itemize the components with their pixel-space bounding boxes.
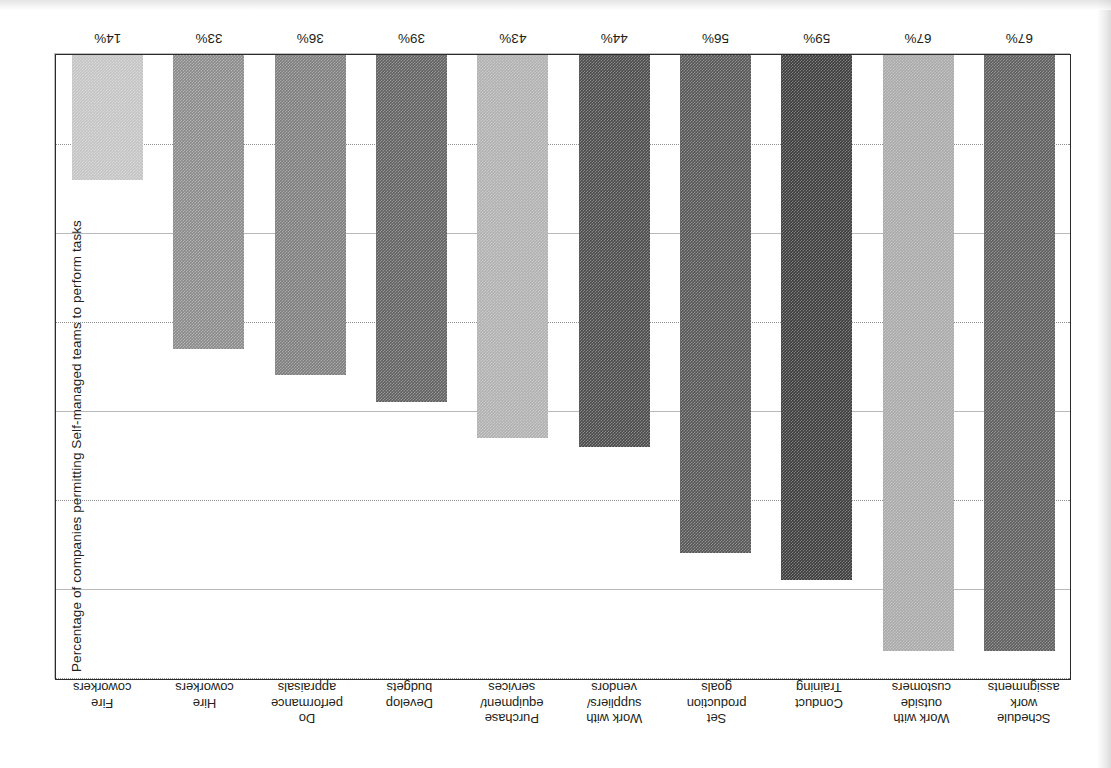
- category-label: Setproductiongoals: [665, 680, 767, 727]
- bar-halftone-texture: [680, 55, 751, 553]
- category-label-line: Develop: [358, 696, 460, 712]
- bar-halftone-texture: [883, 55, 954, 651]
- category-label-line: Schedule: [973, 711, 1075, 727]
- bar-value-label: 33%: [195, 31, 222, 46]
- bar-value-label: 36%: [297, 31, 324, 46]
- bar[interactable]: 67%: [984, 55, 1055, 651]
- category-label-line: Set: [665, 711, 767, 727]
- scan-edge-shadow-bottom: [0, 0, 1111, 10]
- plot-area: 67%67%59%56%44%43%39%36%33%14%: [55, 54, 1071, 680]
- bar[interactable]: 56%: [680, 55, 751, 553]
- bar[interactable]: 33%: [174, 55, 245, 349]
- bar-value-label: 39%: [398, 31, 425, 46]
- category-label-line: Hire: [153, 696, 255, 712]
- category-label-line: coworkers: [153, 680, 255, 696]
- bar-halftone-texture: [984, 55, 1055, 651]
- category-label-line: performance: [256, 696, 358, 712]
- category-label-line: Purchase: [461, 711, 563, 727]
- bar[interactable]: 36%: [275, 55, 346, 375]
- bar[interactable]: 67%: [883, 55, 954, 651]
- bar[interactable]: 59%: [781, 55, 852, 580]
- category-label-line: Conduct: [768, 696, 870, 712]
- bar-halftone-texture: [781, 55, 852, 580]
- category-label-line: suppliers/: [563, 696, 665, 712]
- category-label: Work withsuppliers/vendors: [563, 680, 665, 727]
- category-label-line: vendors: [563, 680, 665, 696]
- category-label-line: production: [665, 696, 767, 712]
- category-label-line: appraisals: [256, 680, 358, 696]
- bar-halftone-texture: [477, 55, 548, 438]
- plot-inner: 67%67%59%56%44%43%39%36%33%14%: [56, 55, 1070, 679]
- bar-halftone-texture: [174, 55, 245, 349]
- category-label-line: Training: [768, 680, 870, 696]
- bar[interactable]: 43%: [477, 55, 548, 438]
- category-label-line: equipment/: [461, 696, 563, 712]
- category-label-line: work: [973, 696, 1075, 712]
- bar-value-label: 67%: [905, 31, 932, 46]
- category-label-line: Do: [256, 711, 358, 727]
- gridline: [56, 678, 1070, 679]
- category-label: Purchaseequipment/services: [461, 680, 563, 727]
- category-label-line: outside: [870, 696, 972, 712]
- chart-figure: ScheduleworkassignmentsWork withoutsidec…: [0, 0, 1111, 768]
- bar-halftone-texture: [376, 55, 447, 402]
- scan-edge-shadow-left: [1097, 0, 1111, 768]
- category-label-line: services: [461, 680, 563, 696]
- category-label-line: Work with: [563, 711, 665, 727]
- y-axis-title: Percentage of companies permitting Self-…: [53, 0, 99, 768]
- category-label: Doperformanceappraisals: [256, 680, 358, 727]
- bar-halftone-texture: [275, 55, 346, 375]
- category-axis-labels: ScheduleworkassignmentsWork withoutsidec…: [51, 680, 1075, 764]
- category-label: Developbudgets: [358, 680, 460, 711]
- bar-halftone-texture: [579, 55, 650, 447]
- bar[interactable]: 44%: [579, 55, 650, 447]
- bar-value-label: 43%: [499, 31, 526, 46]
- category-label-line: goals: [665, 680, 767, 696]
- category-label-line: budgets: [358, 680, 460, 696]
- category-label-line: assignments: [973, 680, 1075, 696]
- category-label: Scheduleworkassignments: [973, 680, 1075, 727]
- category-label-line: Work with: [870, 711, 972, 727]
- category-label: ConductTraining: [768, 680, 870, 711]
- category-label-line: customers: [870, 680, 972, 696]
- bar[interactable]: 39%: [376, 55, 447, 402]
- bar-value-label: 67%: [1006, 31, 1033, 46]
- category-label: Hirecoworkers: [153, 680, 255, 711]
- category-label: Work withoutsidecustomers: [870, 680, 972, 727]
- bar-value-label: 59%: [803, 31, 830, 46]
- bar-value-label: 44%: [601, 31, 628, 46]
- bar-value-label: 56%: [702, 31, 729, 46]
